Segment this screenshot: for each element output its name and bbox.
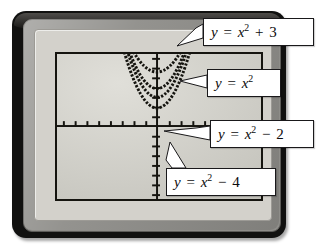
label-y-equals-x-squared: y = x2 xyxy=(207,69,281,97)
callout-4-lhs: y xyxy=(174,174,181,190)
label-y-equals-x-squared-plus-3: y = x2 + 3 xyxy=(203,18,314,46)
label-y-equals-x-squared-minus-4: y = x2 − 4 xyxy=(166,168,276,196)
figure-graphing-calculator-parabolas: y = x2 + 3 y = x2 y = x2 − 2 y = x2 − xyxy=(0,0,324,251)
callout-1-operator: + xyxy=(253,24,265,40)
callout-4-exponent: 2 xyxy=(207,172,212,183)
callout-2-equals: = xyxy=(225,75,237,91)
callout-4-operand: 4 xyxy=(232,174,240,190)
callout-3-exponent: 2 xyxy=(251,124,256,135)
callout-1-operand: 3 xyxy=(269,24,277,40)
callout-3-operand: 2 xyxy=(276,126,284,142)
callout-2-lhs: y xyxy=(215,75,222,91)
label-y-equals-x-squared-minus-2: y = x2 − 2 xyxy=(210,120,314,148)
callout-3-operator: − xyxy=(260,126,272,142)
callout-3-equals: = xyxy=(228,126,240,142)
callout-1-lhs: y xyxy=(211,24,218,40)
callout-3-lhs: y xyxy=(218,126,225,142)
callout-4-operator: − xyxy=(216,174,228,190)
callout-4-equals: = xyxy=(184,174,196,190)
callout-2-operator xyxy=(253,75,257,91)
callout-1-equals: = xyxy=(221,24,233,40)
callout-1-exponent: 2 xyxy=(244,22,249,33)
